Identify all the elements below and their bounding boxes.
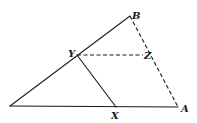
segment-b-a xyxy=(130,16,178,107)
label-b: B xyxy=(131,10,140,21)
label-x: X xyxy=(110,110,120,121)
label-y: Y xyxy=(68,48,76,59)
segment-o-b xyxy=(10,16,130,106)
segment-y-x xyxy=(77,55,116,107)
segment-o-a xyxy=(10,106,178,107)
triangle-diagram: B Y Z X A xyxy=(0,0,197,123)
label-z: Z xyxy=(143,50,152,61)
label-a: A xyxy=(180,103,189,114)
